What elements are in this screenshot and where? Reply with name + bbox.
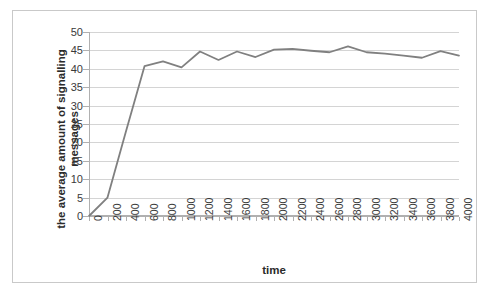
x-tick-mark — [293, 217, 294, 221]
y-tick-label: 45 — [61, 45, 83, 55]
x-axis-ticks: 0200400600800100012001400160018002000220… — [89, 217, 459, 267]
x-tick-mark — [385, 217, 386, 221]
y-tick-mark — [83, 87, 89, 88]
y-tick-label: 30 — [61, 101, 83, 111]
x-tick-label: 3200 — [389, 198, 399, 221]
x-tick-mark — [441, 217, 442, 221]
x-tick-label: 2800 — [352, 198, 362, 221]
y-tick-mark — [83, 106, 89, 107]
series-polyline — [89, 46, 459, 216]
x-tick-mark — [367, 217, 368, 221]
x-tick-mark — [311, 217, 312, 221]
x-tick-mark — [219, 217, 220, 221]
x-tick-label: 1000 — [186, 198, 196, 221]
x-tick-label: 1600 — [241, 198, 251, 221]
x-tick-label: 2600 — [334, 198, 344, 221]
x-tick-mark — [182, 217, 183, 221]
x-tick-mark — [89, 217, 90, 221]
chart-container: the average amount of signalling message… — [12, 10, 477, 283]
y-tick-label: 10 — [61, 174, 83, 184]
x-tick-label: 600 — [149, 203, 159, 221]
y-tick-mark — [83, 50, 89, 51]
y-axis-ticks: 05101520253035404550 — [59, 32, 83, 216]
x-tick-mark — [126, 217, 127, 221]
x-tick-label: 200 — [112, 203, 122, 221]
x-tick-mark — [274, 217, 275, 221]
y-tick-mark — [83, 32, 89, 33]
x-tick-label: 3400 — [408, 198, 418, 221]
x-tick-label: 2200 — [297, 198, 307, 221]
x-tick-label: 400 — [130, 203, 140, 221]
x-tick-label: 2400 — [315, 198, 325, 221]
x-tick-mark — [330, 217, 331, 221]
y-tick-mark — [83, 179, 89, 180]
x-tick-label: 4000 — [463, 198, 473, 221]
x-tick-mark — [404, 217, 405, 221]
x-tick-label: 1400 — [223, 198, 233, 221]
y-tick-label: 20 — [61, 137, 83, 147]
x-tick-label: 800 — [167, 203, 177, 221]
plot-area — [89, 32, 459, 216]
chart-inner: the average amount of signalling message… — [13, 11, 476, 282]
x-tick-label: 3000 — [371, 198, 381, 221]
series-line — [89, 32, 459, 216]
y-tick-mark — [83, 161, 89, 162]
y-tick-mark — [83, 216, 89, 217]
x-tick-mark — [163, 217, 164, 221]
x-tick-label: 2000 — [278, 198, 288, 221]
y-tick-label: 25 — [61, 119, 83, 129]
y-tick-mark — [83, 198, 89, 199]
x-tick-label: 0 — [93, 215, 103, 221]
x-tick-label: 3600 — [426, 198, 436, 221]
x-tick-mark — [348, 217, 349, 221]
y-tick-label: 40 — [61, 64, 83, 74]
x-tick-mark — [200, 217, 201, 221]
x-tick-label: 1200 — [204, 198, 214, 221]
y-tick-label: 15 — [61, 156, 83, 166]
y-tick-label: 35 — [61, 82, 83, 92]
x-tick-mark — [256, 217, 257, 221]
x-tick-mark — [108, 217, 109, 221]
y-tick-mark — [83, 124, 89, 125]
y-tick-label: 0 — [61, 211, 83, 221]
y-tick-label: 50 — [61, 27, 83, 37]
y-tick-mark — [83, 69, 89, 70]
x-tick-label: 3800 — [445, 198, 455, 221]
x-tick-label: 1800 — [260, 198, 270, 221]
x-tick-mark — [422, 217, 423, 221]
x-tick-mark — [459, 217, 460, 221]
x-axis-title: time — [89, 264, 459, 276]
x-tick-mark — [145, 217, 146, 221]
y-tick-mark — [83, 142, 89, 143]
x-tick-mark — [237, 217, 238, 221]
y-tick-label: 5 — [61, 193, 83, 203]
